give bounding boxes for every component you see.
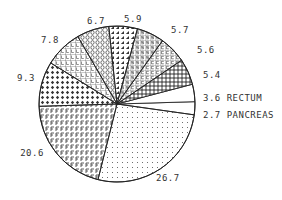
slice-label: 5.4: [203, 70, 221, 80]
slice-label: 26.7: [156, 173, 180, 183]
pie-slices: [39, 26, 195, 182]
slice-label: 7.8: [41, 35, 59, 45]
pie-chart: 2.7 PANCREAS3.6 RECTUM5.45.65.75.96.77.8…: [0, 0, 282, 200]
slice-label: 9.3: [17, 73, 35, 83]
slice-label: 5.6: [197, 45, 215, 55]
slice-label: 5.9: [124, 14, 142, 24]
slice-label: 2.7 PANCREAS: [203, 110, 274, 120]
slice-label: 6.7: [87, 16, 105, 26]
slice-label: 20.6: [20, 148, 44, 158]
slice-label: 3.6 RECTUM: [203, 93, 262, 103]
slice-label: 5.7: [171, 25, 189, 35]
